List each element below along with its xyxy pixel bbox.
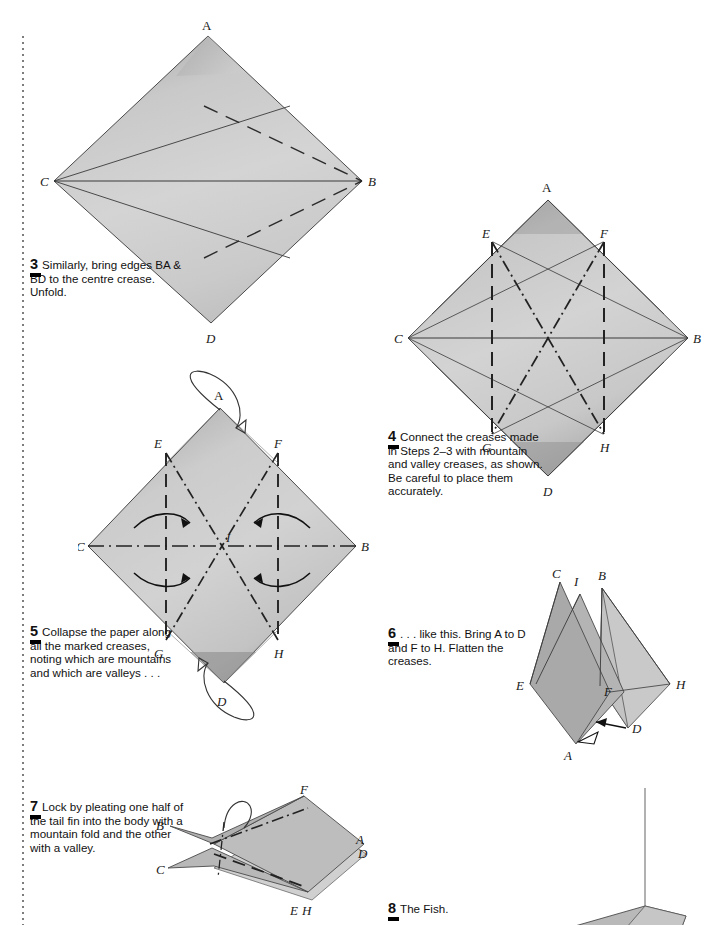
step-text-6: . . . like this. Bring A to D and F to H… [388, 627, 548, 668]
vertex-label-c: C [394, 331, 403, 346]
step-number-8: 8 [388, 902, 396, 916]
vertex-label-b: B [368, 174, 376, 189]
vertex-label-b: B [598, 568, 606, 583]
step-text-3: Similarly, bring edges BA & BD to the ce… [30, 258, 185, 299]
step-text-7: Lock by pleating one half of the tail fi… [30, 800, 190, 854]
vertex-label-f: F [599, 226, 609, 241]
vertex-label-d: D [631, 721, 642, 736]
step-text-8: The Fish. [388, 902, 558, 916]
vertex-label-d: D [205, 331, 216, 346]
vertex-label-i: I [225, 530, 231, 545]
vertex-label-d: D [357, 846, 368, 861]
vertex-label-e: E [481, 226, 490, 241]
vertex-label-c: C [40, 174, 49, 189]
vertex-label-h: H [273, 646, 284, 661]
step-number-3: 3 [30, 258, 38, 272]
vertex-label-a: A [355, 832, 364, 847]
vertex-label-h: H [599, 440, 610, 455]
vertex-label-c: C [552, 566, 561, 581]
vertex-label-d: D [216, 694, 227, 709]
vertex-label-a: A [214, 388, 224, 403]
vertex-label-a: A [542, 180, 552, 195]
left-margin-dotted-rule [22, 36, 24, 925]
caption-step-5: 5 Collapse the paper along all the marke… [30, 625, 180, 679]
vertex-label-a: A [563, 748, 572, 763]
caption-step-6: 6 . . . like this. Bring A to D and F to… [388, 627, 548, 668]
vertex-label-b: B [361, 539, 369, 554]
caption-step-4: 4 Connect the creases made in Steps 2–3 … [388, 430, 548, 498]
vertex-label-h: H [301, 903, 312, 918]
vertex-label-c: C [156, 862, 165, 877]
vertex-label-c: C [78, 539, 85, 554]
vertex-label-f: F [299, 782, 309, 797]
step-number-6: 6 [388, 627, 396, 641]
vertex-label-a: A [202, 18, 212, 33]
step-text-4: Connect the creases made in Steps 2–3 wi… [388, 430, 548, 498]
step-text-5: Collapse the paper along all the marked … [30, 625, 180, 679]
caption-step-7: 7 Lock by pleating one half of the tail … [30, 800, 190, 854]
caption-step-3: 3 Similarly, bring edges BA & BD to the … [30, 258, 185, 299]
step-number-7: 7 [30, 800, 38, 814]
vertex-label-e: E [515, 678, 524, 693]
vertex-label-f: F [273, 436, 283, 451]
origami-instruction-page: A B C D 3 Similarly, bring edges BA & BD… [0, 0, 716, 925]
caption-step-8: 8 The Fish. [388, 902, 558, 916]
vertex-label-e: E [153, 436, 162, 451]
vertex-label-h: H [675, 677, 686, 692]
vertex-label-e: E [289, 903, 298, 918]
step-number-5: 5 [30, 625, 38, 639]
vertex-label-f: F [603, 684, 613, 699]
vertex-label-b: B [693, 331, 701, 346]
vertex-label-i: I [573, 574, 579, 589]
